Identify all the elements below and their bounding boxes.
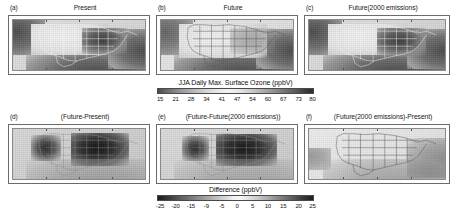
difference-tick-7: 10 [265,203,271,209]
ozone-tick-3: 34 [203,96,209,102]
ozone-colorbar-strip [157,88,314,95]
ozone-tick-9: 73 [295,96,301,102]
panel-f-title: (Future(2000 emissions)-Present) [310,113,456,120]
difference-colorbar-strip [157,195,314,202]
ozone-tick-4: 41 [219,96,225,102]
panel-f: (f) (Future(2000 emissions)-Present) [304,113,450,185]
panel-b-title: Future [162,4,304,11]
panel-e-title: (Future-Future(2000 emissions)) [162,113,304,120]
panel-e-header: (e) (Future-Future(2000 emissions)) [156,113,298,124]
panel-c: (c) Future(2000 emissions) [304,4,450,76]
panel-b-map-frame [156,15,298,75]
us-coastline-overlay [13,129,145,180]
panel-a-title: Present [14,4,156,11]
ozone-colorbar: JJA Daily Max. Surface Ozone (ppbV) 15 2… [157,79,314,105]
difference-colorbar: Difference (ppbV) -25 -20 -15 -9 -5 0 5 … [157,186,314,212]
ozone-colorbar-label: JJA Daily Max. Surface Ozone (ppbV) [157,79,314,86]
ozone-tick-0: 15 [157,96,163,102]
difference-tick-2: -15 [187,203,195,209]
panel-d-map [12,128,146,181]
difference-tick-10: 25 [309,203,315,209]
panel-a-header: (a) Present [8,4,150,15]
panel-a: (a) Present [8,4,150,76]
panel-d-title: (Future-Present) [14,113,156,120]
panel-f-map-frame [304,124,450,184]
panel-c-title: Future(2000 emissions) [310,4,456,11]
panel-e: (e) (Future-Future(2000 emissions)) [156,113,298,185]
ozone-tick-6: 54 [249,96,255,102]
us-coastline-overlay [161,20,293,71]
panel-c-map-frame [304,15,450,75]
ozone-colorbar-ticks: 15 21 28 34 41 47 54 60 67 73 80 [157,96,314,105]
panel-f-map [308,128,446,181]
panel-d: (d) (Future-Present) [8,113,150,185]
difference-tick-9: 20 [295,203,301,209]
us-coastline-overlay [161,129,293,180]
panel-e-map [160,128,294,181]
panel-a-map [12,19,146,72]
panel-c-header: (c) Future(2000 emissions) [304,4,450,15]
difference-tick-6: 5 [251,203,254,209]
difference-colorbar-label: Difference (ppbV) [157,186,314,193]
difference-tick-3: -9 [204,203,209,209]
difference-tick-4: -5 [219,203,224,209]
panel-f-header: (f) (Future(2000 emissions)-Present) [304,113,450,124]
panel-d-map-frame [8,124,150,184]
us-coastline-overlay [309,20,445,71]
difference-tick-8: 15 [280,203,286,209]
panel-b-header: (b) Future [156,4,298,15]
us-coastline-overlay [13,20,145,71]
ozone-tick-7: 60 [265,96,271,102]
ozone-tick-5: 47 [234,96,240,102]
ozone-tick-1: 21 [172,96,178,102]
panel-c-map [308,19,446,72]
difference-colorbar-ticks: -25 -20 -15 -9 -5 0 5 10 15 20 25 [157,203,314,212]
panel-a-map-frame [8,15,150,75]
panel-b-map [160,19,294,72]
difference-tick-1: -20 [171,203,179,209]
panel-d-header: (d) (Future-Present) [8,113,150,124]
figure-canvas: (a) Present [0,0,458,219]
ozone-tick-8: 67 [280,96,286,102]
ozone-tick-2: 28 [188,96,194,102]
difference-tick-0: -25 [156,203,164,209]
us-coastline-overlay [309,129,445,180]
difference-tick-5: 0 [235,203,238,209]
panel-b: (b) Future [156,4,298,76]
ozone-tick-10: 80 [309,96,315,102]
panel-e-map-frame [156,124,298,184]
